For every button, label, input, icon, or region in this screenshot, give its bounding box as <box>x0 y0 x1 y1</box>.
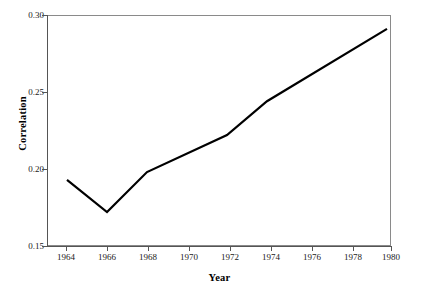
x-tick-1968: 1968 <box>128 252 168 262</box>
x-tick-1978: 1978 <box>333 252 373 262</box>
x-tick-mark-1978 <box>353 246 354 251</box>
y-axis-line <box>47 15 48 247</box>
x-axis-title: Year <box>47 272 392 283</box>
x-tick-label-1968: 1968 <box>128 252 168 262</box>
y-tick-mark-025 <box>42 92 47 93</box>
x-tick-label-1976: 1976 <box>292 252 332 262</box>
x-tick-1964: 1964 <box>46 252 86 262</box>
y-tick-mark-030 <box>42 15 47 16</box>
x-tick-label-1974: 1974 <box>251 252 291 262</box>
y-tick-mark-020 <box>42 169 47 170</box>
x-tick-mark-1970 <box>189 246 190 251</box>
x-tick-mark-1964 <box>66 246 67 251</box>
x-tick-mark-1966 <box>107 246 108 251</box>
chart-figure: 0.30 0.25 0.20 0.15 1964 1966 1968 1970 … <box>0 0 424 299</box>
x-tick-mark-1968 <box>148 246 149 251</box>
x-axis-line <box>47 246 392 247</box>
y-tick-030: 0.30 <box>0 11 44 20</box>
x-tick-mark-1974 <box>271 246 272 251</box>
y-tick-mark-015 <box>42 246 47 247</box>
plot-area <box>47 15 391 246</box>
y-axis-title: Correlation <box>17 79 28 169</box>
x-tick-mark-1976 <box>312 246 313 251</box>
x-tick-label-1972: 1972 <box>210 252 250 262</box>
x-tick-1966: 1966 <box>87 252 127 262</box>
x-tick-label-1966: 1966 <box>87 252 127 262</box>
x-tick-1974: 1974 <box>251 252 291 262</box>
x-tick-1976: 1976 <box>292 252 332 262</box>
x-tick-mark-1972 <box>230 246 231 251</box>
x-tick-label-1964: 1964 <box>46 252 86 262</box>
x-tick-1970: 1970 <box>169 252 209 262</box>
x-tick-1980: 1980 <box>371 252 411 262</box>
x-tick-label-1980: 1980 <box>371 252 411 262</box>
x-tick-1972: 1972 <box>210 252 250 262</box>
x-tick-mark-1980 <box>391 246 392 251</box>
x-tick-label-1970: 1970 <box>169 252 209 262</box>
x-tick-label-1978: 1978 <box>333 252 373 262</box>
y-tick-015: 0.15 <box>0 242 44 251</box>
